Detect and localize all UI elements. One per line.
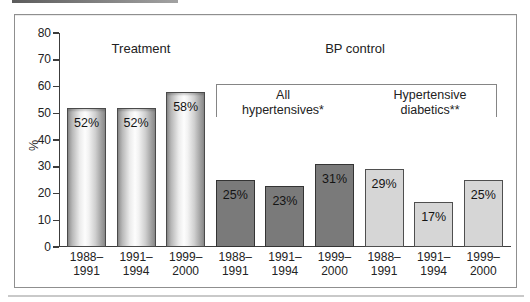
x-tick-label: 1988–1991 — [360, 251, 408, 278]
y-axis-tick — [53, 113, 59, 115]
bar-dark: 23% — [265, 186, 304, 248]
group-header-bp-control: BP control — [303, 41, 407, 56]
x-tick-label-line1: 1999– — [311, 251, 359, 265]
x-tick-label-line2: 2000 — [459, 265, 507, 279]
bar-light: 29% — [365, 169, 404, 247]
y-axis-tick — [53, 86, 59, 88]
subgroup-label-line: All — [213, 88, 353, 103]
y-axis-tick-label: 40 — [24, 133, 51, 148]
y-axis-tick — [53, 32, 59, 34]
x-tick-label: 1999–2000 — [162, 251, 210, 278]
x-tick-label: 1999–2000 — [459, 251, 507, 278]
x-tick-label-line2: 1994 — [410, 265, 458, 279]
bar-silver: 58% — [166, 92, 205, 247]
bar-value-label: 17% — [415, 210, 452, 224]
x-tick-label-line2: 1994 — [261, 265, 309, 279]
bar-value-label: 29% — [366, 177, 403, 191]
subgroup-label-line: Hypertensive — [360, 88, 500, 103]
bar-value-label: 31% — [316, 172, 353, 186]
y-axis-tick-label: 70 — [24, 52, 51, 67]
bar-value-label: 23% — [266, 194, 303, 208]
bottom-rule — [8, 295, 524, 297]
subgroup-label-hypertensive-diabetics: Hypertensive diabetics** — [360, 88, 500, 118]
figure-page: % Treatment BP control All hypertensives… — [0, 0, 530, 302]
x-tick-label: 1999–2000 — [311, 251, 359, 278]
y-axis-tick-label: 30 — [24, 159, 51, 174]
y-axis-tick — [53, 59, 59, 61]
bar-silver: 52% — [67, 108, 106, 247]
subgroup-label-all-hypertensives: All hypertensives* — [213, 88, 353, 118]
x-tick-label: 1991–1994 — [261, 251, 309, 278]
x-tick-label-line1: 1991– — [112, 251, 160, 265]
x-tick-label-line1: 1988– — [211, 251, 259, 265]
subgroup-label-line: diabetics** — [360, 103, 500, 118]
x-tick-label-line1: 1999– — [162, 251, 210, 265]
x-tick-label: 1991–1994 — [112, 251, 160, 278]
bar-light: 17% — [414, 202, 453, 248]
x-tick-label-line1: 1991– — [261, 251, 309, 265]
x-tick-label: 1988–1991 — [63, 251, 111, 278]
x-tick-label-line2: 1994 — [112, 265, 160, 279]
y-axis-tick-label: 80 — [24, 26, 51, 41]
x-tick-label-line2: 1991 — [63, 265, 111, 279]
y-axis-tick-label: 10 — [24, 213, 51, 228]
x-tick-label-line2: 2000 — [162, 265, 210, 279]
y-axis-tick-label: 20 — [24, 186, 51, 201]
bar-silver: 52% — [117, 108, 156, 247]
subgroup-label-line: hypertensives* — [213, 103, 353, 118]
bar-dark: 31% — [315, 164, 354, 247]
x-tick-label-line1: 1988– — [360, 251, 408, 265]
bar-value-label: 52% — [68, 116, 105, 130]
x-tick-label-line1: 1988– — [63, 251, 111, 265]
bar-light: 25% — [464, 180, 503, 247]
y-axis-tick — [53, 166, 59, 168]
y-axis-tick-label: 60 — [24, 79, 51, 94]
bar-dark: 25% — [216, 180, 255, 247]
y-axis-tick — [53, 220, 59, 222]
bar-value-label: 25% — [465, 188, 502, 202]
bar-value-label: 58% — [167, 100, 204, 114]
y-axis-tick — [53, 246, 59, 248]
x-tick-label-line2: 2000 — [311, 265, 359, 279]
y-axis-tick — [53, 193, 59, 195]
y-axis-tick-label: 50 — [24, 106, 51, 121]
bar-value-label: 52% — [118, 116, 155, 130]
plot-area: % Treatment BP control All hypertensives… — [0, 0, 530, 302]
x-tick-label-line2: 1991 — [360, 265, 408, 279]
group-header-treatment: Treatment — [91, 41, 191, 56]
x-tick-label-line2: 1991 — [211, 265, 259, 279]
y-axis-tick — [53, 139, 59, 141]
y-axis-tick-label: 0 — [24, 240, 51, 255]
x-tick-label: 1991–1994 — [410, 251, 458, 278]
x-tick-label-line1: 1999– — [459, 251, 507, 265]
x-tick-label: 1988–1991 — [211, 251, 259, 278]
x-tick-label-line1: 1991– — [410, 251, 458, 265]
bar-value-label: 25% — [217, 188, 254, 202]
